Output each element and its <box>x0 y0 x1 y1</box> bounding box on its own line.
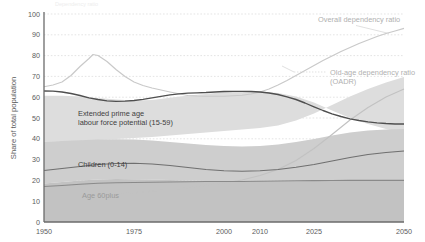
dependency-ratio-chart: Dependency ratio 0 <box>0 0 425 242</box>
y-tick-90: 90 <box>32 30 40 39</box>
x-tick-1975: 1975 <box>126 227 142 236</box>
y-tick-40: 40 <box>32 134 40 143</box>
y-tick-70: 70 <box>32 72 40 81</box>
y-tick-30: 30 <box>32 155 40 164</box>
x-tick-2000: 2000 <box>216 227 232 236</box>
y-tick-80: 80 <box>32 51 40 60</box>
overall-dependency-ratio-label: Overall dependency ratio <box>318 15 400 24</box>
oadr-label-line2: (OADR) <box>330 77 356 86</box>
x-tick-1950: 1950 <box>36 227 52 236</box>
plot-areas <box>44 77 404 222</box>
x-tick-2025: 2025 <box>306 227 322 236</box>
y-tick-100: 100 <box>28 10 40 19</box>
y-tick-50: 50 <box>32 114 40 123</box>
cropped-title: Dependency ratio <box>55 1 98 7</box>
y-tick-60: 60 <box>32 93 40 102</box>
prime-age-label-line2: labour force potential (15-59) <box>78 118 173 127</box>
prime-age-label-line1: Extended prime age <box>78 109 144 118</box>
age60plus-label: Age 60plus <box>82 191 119 200</box>
area-age60-band <box>44 179 404 222</box>
children-label: Children (0-14) <box>78 160 127 169</box>
x-tick-2010: 2010 <box>252 227 268 236</box>
oadr-label-line1: Old-age dependency ratio <box>330 68 415 77</box>
y-tick-20: 20 <box>32 176 40 185</box>
y-tick-10: 10 <box>32 197 40 206</box>
x-tick-2050: 2050 <box>396 227 412 236</box>
y-tick-0: 0 <box>36 218 40 227</box>
chart-container: Dependency ratio 0 <box>0 0 425 242</box>
y-axis-title: Share of total population <box>9 77 18 159</box>
